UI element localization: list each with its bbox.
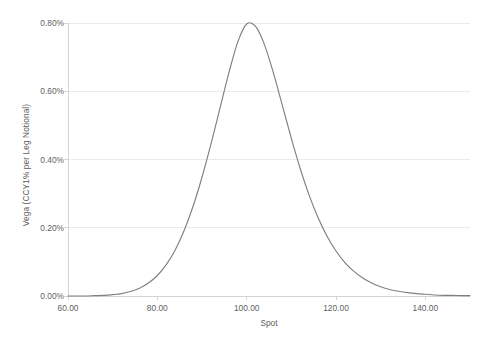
x-tick-label: 60.00 xyxy=(33,303,103,313)
x-tick-label: 100.00 xyxy=(212,303,282,313)
x-tick-label: 120.00 xyxy=(301,303,371,313)
x-axis-tick-labels: 60.00 80.00 100.00 120.00 140.00 xyxy=(0,0,485,344)
x-tick-label: 80.00 xyxy=(122,303,192,313)
x-tick-label: 140.00 xyxy=(390,303,460,313)
vega-vs-spot-chart: Vega (CCY1% per Leg Notional) 0.00% 0.20… xyxy=(0,0,485,344)
x-axis-title: Spot xyxy=(68,318,470,328)
